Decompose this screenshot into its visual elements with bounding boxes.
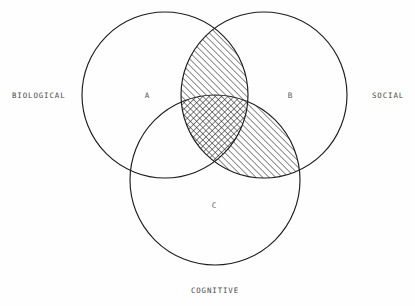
- label-cognitive: COGNITIVE: [191, 286, 239, 295]
- region-label-a: A: [145, 91, 150, 100]
- venn-diagram-svg: BIOLOGICAL SOCIAL COGNITIVE A B C: [0, 0, 415, 306]
- venn-diagram-canvas: BIOLOGICAL SOCIAL COGNITIVE A B C: [0, 0, 415, 306]
- label-biological: BIOLOGICAL: [12, 91, 66, 100]
- region-label-b: B: [288, 91, 293, 100]
- label-social: SOCIAL: [372, 91, 404, 100]
- region-label-c: C: [212, 201, 217, 210]
